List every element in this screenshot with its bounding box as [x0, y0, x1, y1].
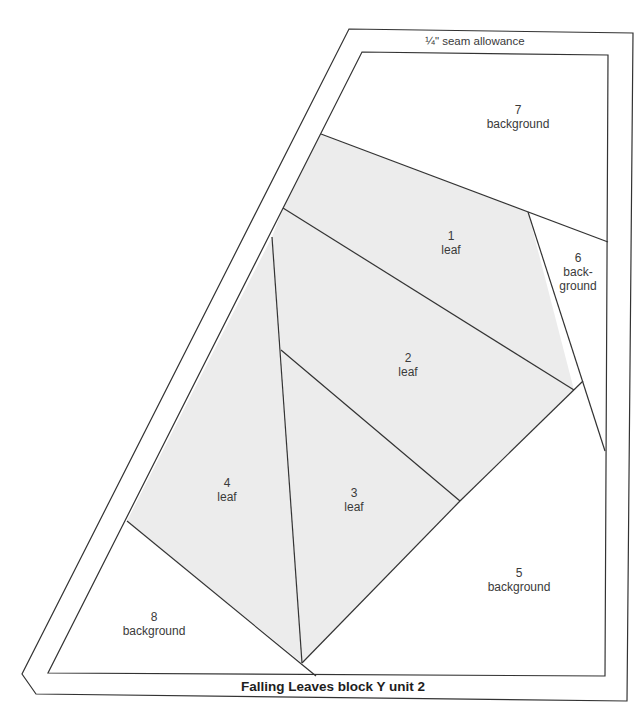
piece-number: 5 — [488, 566, 551, 580]
piece-fabric: background — [488, 580, 551, 594]
seam-allowance-label: ¼" seam allowance — [425, 35, 524, 47]
piece-6-label: 6 back- ground — [559, 251, 596, 293]
piece-fabric: background — [487, 117, 550, 131]
piece-fabric-line2: ground — [559, 279, 596, 293]
piece-fabric: background — [123, 624, 186, 638]
piece-number: 3 — [344, 486, 363, 500]
piece-number: 8 — [123, 610, 186, 624]
piece-fabric: leaf — [217, 490, 236, 504]
piece-3-label: 3 leaf — [344, 486, 363, 514]
piece-fabric: leaf — [344, 500, 363, 514]
piece-number: 6 — [559, 251, 596, 265]
piece-2-label: 2 leaf — [398, 351, 417, 379]
piece-1-label: 1 leaf — [441, 229, 460, 257]
piece-fabric: leaf — [398, 365, 417, 379]
piece-fabric: leaf — [441, 243, 460, 257]
piece-number: 7 — [487, 103, 550, 117]
diagram-title: Falling Leaves block Y unit 2 — [241, 679, 425, 694]
piece-5-label: 5 background — [488, 566, 551, 594]
piece-4-leaf — [127, 237, 302, 663]
piece-8-label: 8 background — [123, 610, 186, 638]
piece-number: 2 — [398, 351, 417, 365]
piece-number: 1 — [441, 229, 460, 243]
piece-fabric-line1: back- — [559, 265, 596, 279]
piece-4-label: 4 leaf — [217, 476, 236, 504]
piece-number: 4 — [217, 476, 236, 490]
piece-7-label: 7 background — [487, 103, 550, 131]
